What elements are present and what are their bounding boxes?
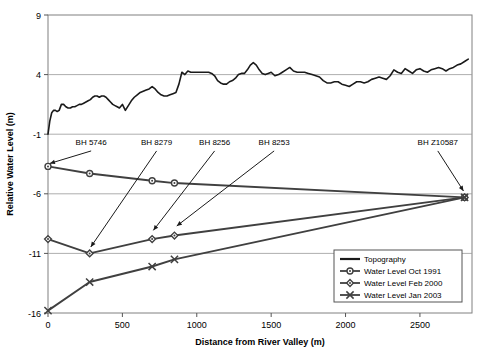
bh-label-2: BH 8256 [199, 138, 231, 147]
marker-core-2-2 [151, 238, 153, 240]
y-tick-label--16: -16 [28, 309, 41, 319]
y-tick-label-4: 4 [36, 70, 41, 80]
bh-label-1: BH 8279 [141, 138, 173, 147]
chart-canvas: 94-1-6-11-1605001000150020002500Distance… [0, 0, 490, 362]
legend-label-2: Water Level Feb 2000 [364, 279, 443, 288]
bh-label-0: BH 5746 [76, 138, 108, 147]
bh-label-3: BH 8253 [259, 138, 291, 147]
marker-core-1-0 [47, 165, 49, 167]
x-tick-label-500: 500 [115, 320, 130, 330]
legend-label-1: Water Level Oct 1991 [364, 267, 442, 276]
marker-core-1-2 [151, 180, 153, 182]
x-tick-label-1500: 1500 [261, 320, 281, 330]
y-tick-label-9: 9 [36, 11, 41, 21]
marker-core-1-1 [89, 173, 91, 175]
bh-label-4: BH Z10587 [418, 138, 459, 147]
y-tick-label--6: -6 [33, 189, 41, 199]
water-level-chart: 94-1-6-11-1605001000150020002500Distance… [0, 0, 490, 362]
x-tick-label-2500: 2500 [410, 320, 430, 330]
legend-marker-core-2 [349, 282, 351, 284]
legend-marker-core-1 [349, 270, 351, 272]
y-tick-label--11: -11 [29, 249, 41, 259]
x-axis-title: Distance from River Valley (m) [195, 337, 325, 347]
y-axis-title: Relative Water Level (m) [5, 112, 15, 216]
legend-label-3: Water Level Jan 2003 [364, 291, 442, 300]
x-tick-label-1000: 1000 [187, 320, 207, 330]
x-tick-label-0: 0 [45, 320, 50, 330]
marker-core-2-3 [173, 235, 175, 237]
legend-label-0: Topography [364, 255, 406, 264]
marker-core-2-0 [47, 238, 49, 240]
marker-core-1-3 [173, 182, 175, 184]
x-tick-label-2000: 2000 [336, 320, 356, 330]
y-tick-label--1: -1 [33, 130, 41, 140]
marker-core-2-1 [89, 252, 91, 254]
